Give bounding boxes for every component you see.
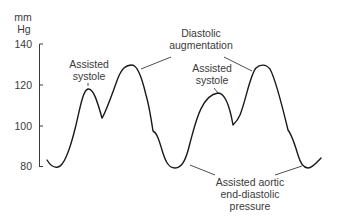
leader-end-diastolic-right (275, 166, 302, 175)
leader-diastolic-augmentation-left (141, 57, 171, 69)
y-axis (40, 44, 44, 167)
iabp-pressure-diagram: mm Hg 140 120 100 80 Assisted systole (0, 0, 338, 222)
leader-assisted-systole-2 (214, 88, 218, 93)
label-end-diastolic-pressure: Assisted aortic end-diastolic pressure (208, 176, 292, 212)
label-diastolic-augmentation: Diastolic augmentation (164, 27, 238, 51)
label-assisted-systole-2: Assisted systole (186, 62, 238, 86)
leader-end-diastolic-left (190, 165, 215, 175)
label-assisted-systole-1: Assisted systole (63, 58, 115, 82)
